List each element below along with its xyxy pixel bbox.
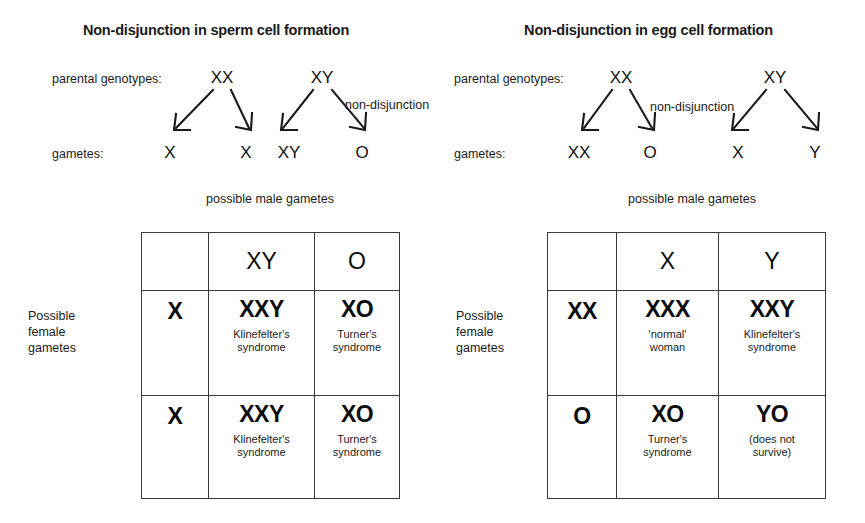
punnett-cell-r2c2: XO Turner's syndrome (315, 396, 400, 499)
possible-male-gametes-caption-sperm: possible male gametes (206, 192, 334, 206)
corner-cell (142, 233, 209, 291)
column-header-1-label: X (660, 249, 675, 273)
table-row: O XO Turner's syndrome YO (548, 396, 826, 499)
punnett-cell-r1c2-note: Klinefelter's syndrome (744, 328, 801, 354)
punnett-cell-r2c1: XXY Klinefelter's syndrome (209, 396, 315, 499)
gamete-sperm-3: XY (278, 143, 301, 163)
note-line-2: syndrome (643, 446, 691, 458)
gamete-egg-1: XX (568, 143, 591, 163)
column-header-2: Y (719, 233, 826, 291)
punnett-cell-r1c1-note: 'normal' woman (649, 328, 687, 354)
row-header-1-label: XX (567, 299, 597, 323)
punnett-square-sperm: XY O X XXY Klinefelter's syndrome (141, 232, 400, 499)
table-row: X XXY Klinefelter's syndrome XO (142, 291, 400, 396)
row-header-2-label: O (573, 404, 590, 428)
punnett-cell-r1c1: XXX 'normal' woman (617, 291, 719, 396)
gametes-label-egg: gametes: (454, 147, 505, 161)
female-label-line-1: Possible (456, 308, 504, 324)
punnett-cell-r2c1-genotype: XO (651, 402, 683, 426)
note-line-1: Turner's (337, 328, 377, 340)
note-line-1: Klinefelter's (744, 328, 801, 340)
female-label-line-3: gametes (28, 340, 76, 356)
punnett-cell-r1c2-genotype: XO (341, 297, 373, 321)
punnett-cell-r1c1-note: Klinefelter's syndrome (233, 328, 290, 354)
punnett-cell-r2c2-note: Turner's syndrome (333, 433, 381, 459)
panel-egg-nondisjunction: Non-disjunction in egg cell formation pa… (432, 0, 865, 523)
punnett-cell-r1c2: XO Turner's syndrome (315, 291, 400, 396)
female-label-line-1: Possible (28, 308, 76, 324)
gametes-label-sperm: gametes: (52, 147, 103, 161)
female-label-line-2: female (28, 324, 76, 340)
corner-cell (548, 233, 617, 291)
table-row-header: XY O (142, 233, 400, 291)
row-header-1: X (142, 291, 209, 396)
column-header-2-label: Y (764, 249, 779, 273)
note-line-2: survive) (753, 446, 792, 458)
note-line-1: 'normal' (649, 328, 687, 340)
cross-diagram-sperm: parental genotypes: XX XY non-disjunctio… (0, 0, 432, 180)
column-header-1-label: XY (246, 249, 277, 273)
row-header-1-label: X (168, 299, 183, 323)
punnett-cell-r2c1-genotype: XXY (239, 402, 284, 426)
note-line-1: Turner's (337, 433, 377, 445)
row-header-2: X (142, 396, 209, 499)
punnett-cell-r2c1-note: Klinefelter's syndrome (233, 433, 290, 459)
punnett-cell-r2c2: YO (does not survive) (719, 396, 826, 499)
note-line-1: (does not (749, 433, 795, 445)
note-line-1: Klinefelter's (233, 433, 290, 445)
punnett-square-egg: X Y XX XXX 'normal' woman (547, 232, 826, 499)
female-label-line-3: gametes (456, 340, 504, 356)
note-line-1: Turner's (648, 433, 688, 445)
note-line-2: woman (650, 341, 685, 353)
punnett-cell-r2c2-genotype: XO (341, 402, 373, 426)
gamete-egg-2: O (643, 143, 656, 163)
punnett-cell-r2c1: XO Turner's syndrome (617, 396, 719, 499)
possible-female-gametes-label-sperm: Possible female gametes (28, 308, 76, 356)
note-line-2: syndrome (333, 446, 381, 458)
row-header-2: O (548, 396, 617, 499)
gamete-sperm-1: X (164, 143, 175, 163)
row-header-1: XX (548, 291, 617, 396)
punnett-cell-r2c2-genotype: YO (756, 402, 788, 426)
cross-diagram-egg: parental genotypes: XX XY non-disjunctio… (432, 0, 865, 180)
punnett-cell-r1c2-genotype: XXY (750, 297, 795, 321)
note-line-2: syndrome (748, 341, 796, 353)
table-row: X XXY Klinefelter's syndrome XO (142, 396, 400, 499)
gamete-sperm-4: O (355, 143, 368, 163)
note-line-1: Klinefelter's (233, 328, 290, 340)
gamete-egg-4: Y (809, 143, 820, 163)
possible-female-gametes-label-egg: Possible female gametes (456, 308, 504, 356)
column-header-2-label: O (348, 249, 366, 273)
panel-sperm-nondisjunction: Non-disjunction in sperm cell formation … (0, 0, 432, 523)
punnett-cell-r1c1-genotype: XXY (239, 297, 284, 321)
column-header-1: XY (209, 233, 315, 291)
column-header-2: O (315, 233, 400, 291)
genetics-diagram-page: Non-disjunction in sperm cell formation … (0, 0, 865, 523)
gamete-egg-3: X (732, 143, 743, 163)
punnett-cell-r2c2-note: (does not survive) (749, 433, 795, 459)
note-line-2: syndrome (333, 341, 381, 353)
table-row-header: X Y (548, 233, 826, 291)
punnett-cell-r1c1-genotype: XXX (645, 297, 690, 321)
column-header-1: X (617, 233, 719, 291)
punnett-cell-r2c1-note: Turner's syndrome (643, 433, 691, 459)
note-line-2: syndrome (237, 341, 285, 353)
female-label-line-2: female (456, 324, 504, 340)
gamete-sperm-2: X (240, 143, 251, 163)
row-header-2-label: X (168, 404, 183, 428)
possible-male-gametes-caption-egg: possible male gametes (628, 192, 756, 206)
punnett-cell-r1c2-note: Turner's syndrome (333, 328, 381, 354)
table-row: XX XXX 'normal' woman XXY (548, 291, 826, 396)
punnett-cell-r1c2: XXY Klinefelter's syndrome (719, 291, 826, 396)
punnett-cell-r1c1: XXY Klinefelter's syndrome (209, 291, 315, 396)
note-line-2: syndrome (237, 446, 285, 458)
